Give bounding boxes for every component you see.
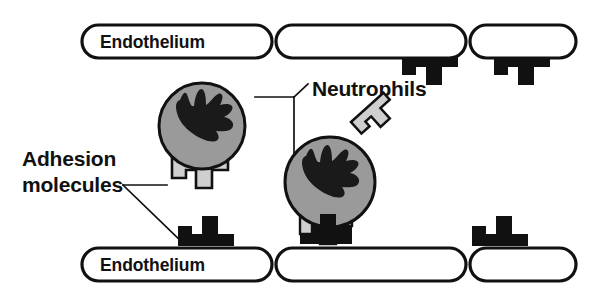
cell-outline <box>276 248 466 281</box>
endothelium-cell-bottom-1: Endothelium <box>82 248 272 281</box>
endothelium-cell-top-3 <box>470 25 576 58</box>
adhesion-label-line2: molecules <box>22 173 123 196</box>
neutrophil-adhesion-diagram: Endothelium Neutrophils Adhesion molecul… <box>0 0 591 291</box>
endothelium-cell-top-1: Endothelium <box>82 25 272 58</box>
endothelium-cell-bottom-2 <box>276 248 466 281</box>
endothelium-cell-top-2 <box>276 25 466 58</box>
endothelium-bottom-label: Endothelium <box>100 255 205 275</box>
endothelium-bottom-row: Endothelium <box>82 248 576 281</box>
cell-outline <box>470 248 576 281</box>
neutrophils-label-text: Neutrophils <box>312 77 426 100</box>
cell-outline <box>470 25 576 58</box>
endothelium-cell-bottom-3 <box>470 248 576 281</box>
endothelium-top-label: Endothelium <box>100 32 205 52</box>
cell-outline <box>276 25 466 58</box>
adhesion-label-line1: Adhesion <box>22 147 116 170</box>
label-neutrophils: Neutrophils <box>312 77 426 100</box>
